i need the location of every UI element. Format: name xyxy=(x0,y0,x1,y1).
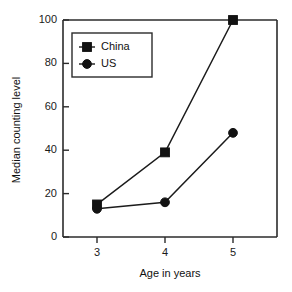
x-axis-title: Age in years xyxy=(139,267,201,279)
x-tick-label-5: 5 xyxy=(230,246,236,258)
y-tick-label-60: 60 xyxy=(45,100,57,112)
y-tick-label-40: 40 xyxy=(45,143,57,155)
legend-label-china: China xyxy=(101,40,131,52)
data-point-us-5 xyxy=(229,128,238,137)
data-point-us-4 xyxy=(161,198,170,207)
chart-legend: China US xyxy=(72,33,152,77)
data-point-china-5 xyxy=(229,16,238,25)
chart-figure: 0 20 40 60 80 100 3 4 5 Age in years Med… xyxy=(0,0,292,292)
y-tick-label-100: 100 xyxy=(39,13,57,25)
x-tick-label-4: 4 xyxy=(162,246,168,258)
y-tick-label-20: 20 xyxy=(45,187,57,199)
data-point-china-4 xyxy=(161,148,170,157)
y-axis-title: Median counting level xyxy=(10,77,22,183)
line-chart: 0 20 40 60 80 100 3 4 5 Age in years Med… xyxy=(0,0,292,292)
legend-label-us: US xyxy=(101,57,116,69)
x-tick-label-3: 3 xyxy=(94,246,100,258)
legend-marker-square-icon xyxy=(83,43,92,52)
y-tick-label-0: 0 xyxy=(51,230,57,242)
y-tick-label-80: 80 xyxy=(45,56,57,68)
data-point-us-3 xyxy=(93,204,102,213)
legend-marker-circle-icon xyxy=(83,60,92,69)
